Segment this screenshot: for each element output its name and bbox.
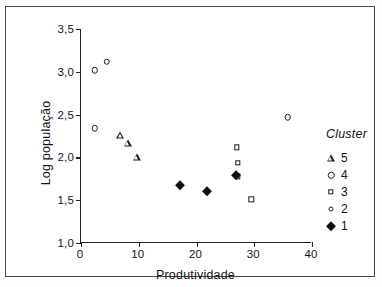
data-point-cluster-5 — [133, 153, 141, 160]
legend-marker-open-square-icon — [324, 185, 338, 199]
data-point-cluster-1 — [176, 180, 185, 189]
legend-item-label: 4 — [341, 168, 348, 182]
x-axis-tick — [254, 242, 255, 247]
legend-marker-open-circle-icon — [324, 168, 338, 182]
data-point-cluster-5 — [116, 132, 124, 139]
y-axis-tick-label: 3,5 — [57, 23, 74, 35]
y-axis-tick — [76, 200, 81, 201]
legend-items: 54321 — [324, 150, 380, 234]
y-axis-tick — [76, 115, 81, 116]
x-axis-tick-labels: 010203040 — [80, 248, 311, 264]
open-circle-marker — [328, 172, 335, 179]
y-axis-tick — [76, 157, 81, 158]
legend-marker-small-open-circle-icon — [324, 202, 338, 216]
x-axis-tick-label: 20 — [189, 248, 202, 260]
legend-item-label: 2 — [341, 202, 348, 216]
x-axis-tick-label: 30 — [247, 248, 260, 260]
legend-marker-open-triangle-icon — [324, 151, 338, 165]
plot-area — [80, 29, 311, 243]
y-axis-tick-label: 1,0 — [57, 237, 74, 249]
y-axis-tick-label: 1,5 — [57, 194, 74, 206]
legend-item-5[interactable]: 5 — [324, 150, 380, 166]
y-axis-tick — [76, 72, 81, 73]
data-point-cluster-3 — [234, 144, 239, 149]
x-axis-tick-label: 0 — [77, 248, 83, 260]
legend-item-label: 3 — [341, 185, 348, 199]
legend-item-label: 5 — [341, 151, 348, 165]
figure-canvas: Log população 1,01,52,02,53,03,5 0102030… — [0, 0, 382, 287]
x-axis-tick — [81, 242, 82, 247]
open-square-marker — [328, 189, 333, 194]
x-axis-tick-label: 10 — [131, 248, 144, 260]
data-point-cluster-4 — [92, 67, 99, 74]
figure-border: Log população 1,01,52,02,53,03,5 0102030… — [5, 6, 375, 277]
small-open-circle-marker — [329, 207, 334, 212]
x-axis-tick — [197, 242, 198, 247]
y-axis-tick-label: 2,5 — [57, 109, 74, 121]
data-point-cluster-4 — [92, 125, 99, 132]
legend: Cluster 54321 — [324, 127, 380, 235]
legend-item-3[interactable]: 3 — [324, 184, 380, 200]
data-point-cluster-5 — [124, 139, 132, 146]
legend-item-1[interactable]: 1 — [324, 218, 380, 234]
data-point-cluster-3 — [235, 160, 240, 165]
axis-corner — [80, 29, 81, 30]
data-point-cluster-4 — [284, 114, 291, 121]
data-point-cluster-1 — [202, 186, 211, 195]
x-axis-tick — [312, 242, 313, 247]
legend-item-2[interactable]: 2 — [324, 201, 380, 217]
x-axis-tick-label: 40 — [305, 248, 318, 260]
y-axis-tick-label: 2,0 — [57, 151, 74, 163]
x-axis-tick — [139, 242, 140, 247]
y-axis-tick-label: 3,0 — [57, 66, 74, 78]
legend-marker-filled-diamond-icon — [324, 219, 338, 233]
y-axis-tick-labels: 1,01,52,02,53,03,5 — [40, 29, 74, 243]
open-triangle-marker — [327, 155, 335, 162]
legend-item-label: 1 — [341, 219, 348, 233]
x-axis-title: Produtividade — [80, 268, 311, 282]
data-point-cluster-3 — [249, 197, 254, 202]
legend-item-4[interactable]: 4 — [324, 167, 380, 183]
filled-diamond-marker — [326, 221, 335, 230]
data-point-cluster-4 — [104, 58, 111, 65]
legend-title: Cluster — [326, 127, 380, 141]
